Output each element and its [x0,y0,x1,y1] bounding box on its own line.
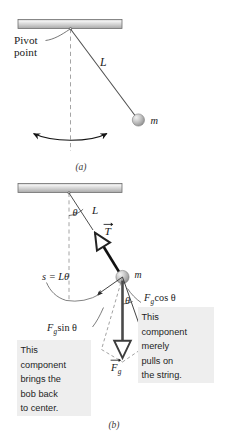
angle-label-top: θ [73,207,78,218]
left-callout-line-1: This [21,345,39,355]
right-callout-line-4: pulls on [142,356,174,366]
right-callout-line-2: component [142,327,188,337]
left-callout-line-4: bob back [21,389,59,399]
length-label-b: L [91,204,98,216]
ceiling-bar-a [18,20,122,29]
pivot-leader-line-a [46,30,70,41]
tangential-component-leader-line [93,308,104,328]
figure-canvas: Pivot point L m (a) θ [0,0,236,438]
arc-length-path [66,294,102,302]
length-label-a: L [99,55,107,69]
left-callout-line-3: brings the [21,374,61,384]
tension-label-text: T [105,225,113,237]
ceiling-bar-b [18,184,122,193]
left-callout: This component brings the bob back to ce… [17,340,91,416]
pendulum-figure: Pivot point L m (a) θ [0,0,236,438]
pivot-point-label-line2: point [14,46,38,58]
tension-vector-label: T [104,223,114,237]
left-callout-line-2: component [21,360,67,370]
arc-length-label: s = Lθ [42,271,69,282]
pendulum-string-a [71,29,136,116]
panel-caption-a: (a) [75,162,86,173]
pivot-point-label-line1: Pivot [14,34,39,46]
gravity-vector-overbar-head [119,358,121,362]
right-callout-line-5: the string. [142,370,182,380]
parallelogram-dashed-left [102,277,123,350]
arc-length-leader-line [47,283,66,301]
gravity-force-label-subscript: g [118,367,122,376]
panel-a: Pivot point L m (a) [14,20,159,174]
angle-label-bob: θ [125,295,130,306]
gravity-force-label: F g [110,358,122,376]
tangential-component-label: F g sin θ [46,322,77,336]
right-callout: This component merely pulls on the strin… [138,307,214,383]
panel-caption-b: (b) [108,420,119,431]
radial-component-label-rest: cos θ [155,292,176,303]
panel-b: θ L T s = Lθ m [17,184,214,432]
right-callout-line-3: merely [142,341,170,351]
pendulum-bob-a [132,114,144,126]
radial-component-label: F g cos θ [143,292,176,306]
tension-vector-arrow [96,234,120,273]
mass-label-a: m [151,115,159,126]
left-callout-line-5: to center. [21,403,59,413]
mass-label-b: m [135,269,142,280]
tangential-component-vector [98,277,123,295]
right-callout-line-1: This [142,312,160,322]
gravity-force-label-base: F [110,362,118,373]
tangential-component-label-rest: sin θ [58,322,77,333]
tension-vector-overbar-head [111,223,113,227]
